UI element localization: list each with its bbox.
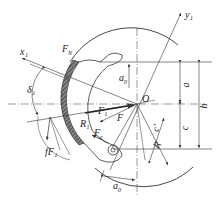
R1-label: R₁ [80,119,90,129]
a-label: a [181,83,191,88]
y1-label: y₁ [185,10,193,20]
FN-label: FN [62,44,72,56]
brake-shoe-diagram: x₁ y₁ FN δ₁ fF₁ F₁ F R₁ Fe O a h c c′ R … [0,0,221,201]
y1-axis [110,13,181,170]
fF1-label: fF₁ [45,147,57,157]
Fe-label: Fe [94,128,103,140]
a0-top-label: a0 [119,73,127,85]
friction-lining [61,60,84,145]
O-label: O [142,94,149,104]
x1-label: x₁ [20,47,28,57]
drum-arc [70,28,178,62]
h-label: h [199,104,209,109]
c-label: c [180,126,190,130]
a0-bottom-label: a0 [113,181,121,193]
delta1-label: δ₁ [27,85,35,95]
diagram-canvas [0,0,221,201]
F-label: F [117,113,123,123]
fF1-arrow [47,117,50,140]
F1-label: F₁ [98,106,108,116]
